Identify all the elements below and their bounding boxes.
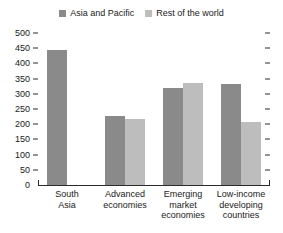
category-label-line: countries: [208, 210, 274, 221]
category-label-line: Emerging: [150, 189, 216, 200]
plot-area: 500450400350300250200150100500 SouthAsia…: [0, 0, 283, 233]
bar: [105, 116, 125, 185]
bar: [183, 83, 203, 185]
category-label-line: South: [34, 189, 100, 200]
bar: [47, 50, 67, 185]
bar: [163, 88, 183, 185]
category-label-line: economies: [92, 200, 158, 211]
bar: [241, 122, 261, 185]
category-label-line: Low-income: [208, 189, 274, 200]
bar-chart: Asia and Pacific Rest of the world 50045…: [0, 0, 283, 233]
category-label-line: Advanced: [92, 189, 158, 200]
bar: [125, 119, 145, 185]
category-label-line: economies: [150, 210, 216, 221]
category-label-line: Asia: [34, 200, 100, 211]
category-label-line: market: [150, 200, 216, 211]
category-label-line: developing: [208, 200, 274, 211]
x-axis-category-label: Advancedeconomies: [92, 189, 158, 210]
x-axis-category-label: Low-incomedevelopingcountries: [208, 189, 274, 221]
x-axis-category-label: Emergingmarketeconomies: [150, 189, 216, 221]
x-axis-category-label: SouthAsia: [34, 189, 100, 210]
bar: [221, 84, 241, 185]
